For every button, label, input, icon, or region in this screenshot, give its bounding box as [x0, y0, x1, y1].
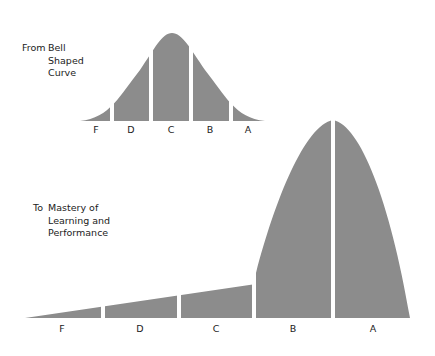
top-grade-label: D: [127, 124, 134, 135]
bell-curve: [78, 20, 267, 122]
bell-band-c: [153, 20, 189, 122]
top-caption-line: Curve: [48, 67, 84, 80]
top-grade-label: F: [93, 124, 98, 135]
top-grade-label: C: [168, 124, 175, 135]
mastery-band-a: [335, 100, 415, 319]
bottom-caption: Mastery of Learning and Performance: [48, 202, 110, 240]
bell-band-b: [193, 20, 229, 122]
bottom-grade-label: D: [136, 323, 143, 334]
bell-band-d: [114, 20, 149, 122]
bottom-grade-label: A: [370, 323, 377, 334]
mastery-band-b: [256, 100, 331, 319]
bottom-grade-label: C: [213, 323, 220, 334]
mastery-band-d: [105, 100, 177, 319]
bottom-grade-label: B: [290, 323, 297, 334]
mastery-band-c: [181, 100, 252, 319]
top-caption-line: Shaped: [48, 55, 84, 68]
bottom-caption-line: Mastery of: [48, 202, 110, 215]
top-caption-prefix: From: [22, 42, 46, 55]
bottom-caption-line: Performance: [48, 227, 110, 240]
top-caption: Bell Shaped Curve: [48, 42, 84, 80]
top-grade-label: B: [207, 124, 214, 135]
top-caption-line: Bell: [48, 42, 84, 55]
bottom-grade-label: F: [59, 323, 64, 334]
bottom-caption-line: Learning and: [48, 215, 110, 228]
bell-band-a: [233, 20, 267, 122]
top-grade-label: A: [245, 124, 252, 135]
bottom-caption-prefix: To: [33, 202, 43, 215]
